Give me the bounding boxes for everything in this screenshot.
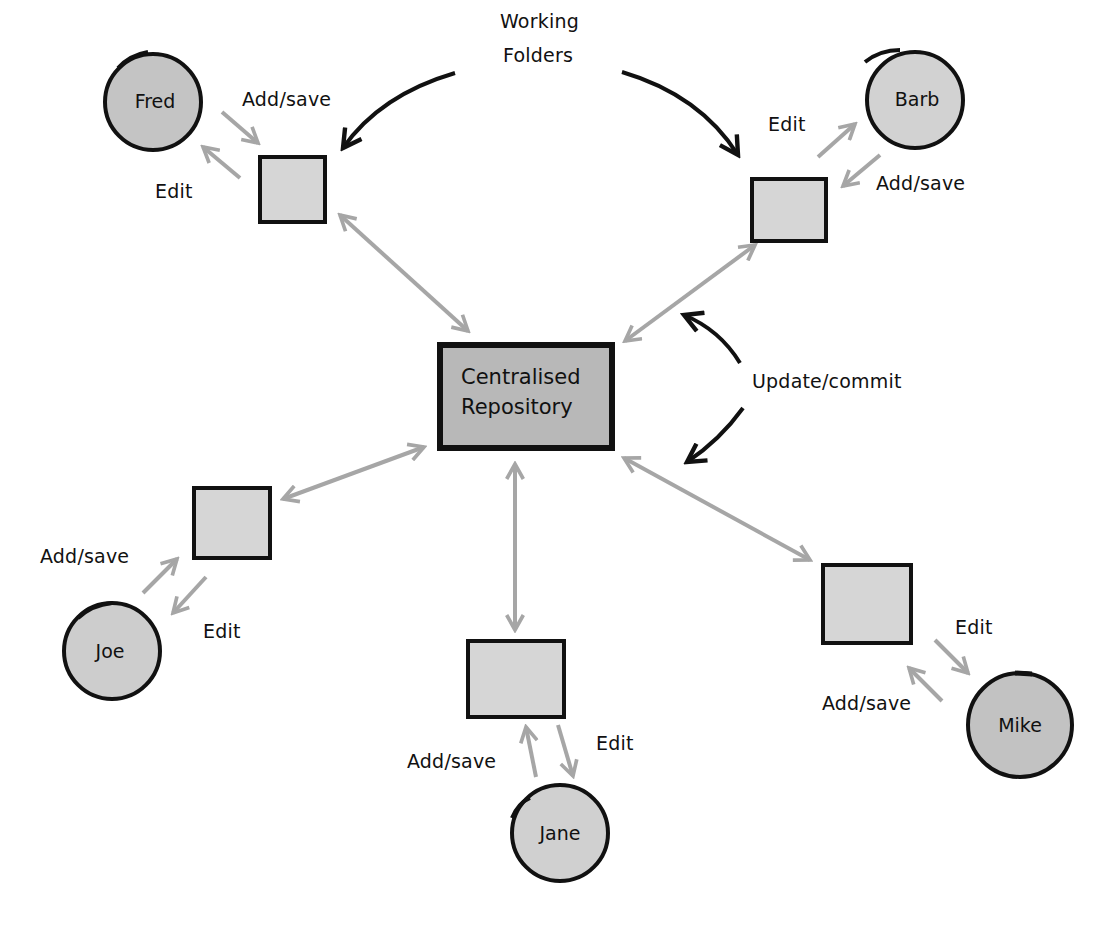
working-folder-joe — [194, 488, 270, 558]
update-commit-label: Update/commit — [752, 370, 902, 392]
jane-edit-label: Edit — [596, 732, 634, 754]
person-name-joe: Joe — [75, 640, 145, 662]
person-name-barb: Barb — [882, 88, 952, 110]
jane-add-label: Add/save — [407, 750, 496, 772]
mike-edit-label: Edit — [955, 616, 993, 638]
repository-label: Centralised Repository — [447, 362, 613, 422]
working-folder-mike — [823, 565, 911, 643]
fred-edit-label: Edit — [155, 180, 193, 202]
repository-label-line1: Centralised — [461, 362, 613, 392]
working-folders-label-line1: Working — [500, 10, 579, 32]
diagram-canvas — [0, 0, 1111, 926]
joe-add-label: Add/save — [40, 545, 129, 567]
working-folder-fred — [260, 157, 325, 222]
joe-edit-label: Edit — [203, 620, 241, 642]
barb-add-label: Add/save — [876, 172, 965, 194]
fred-add-label: Add/save — [242, 88, 331, 110]
barb-edit-label: Edit — [768, 113, 806, 135]
repository-label-line2: Repository — [461, 392, 613, 422]
working-folder-jane — [468, 641, 564, 717]
person-name-mike: Mike — [985, 714, 1055, 736]
mike-add-label: Add/save — [822, 692, 911, 714]
person-name-fred: Fred — [120, 90, 190, 112]
working-folder-barb — [752, 179, 826, 241]
person-name-jane: Jane — [525, 822, 595, 844]
working-folders-label-line2: Folders — [503, 44, 573, 66]
